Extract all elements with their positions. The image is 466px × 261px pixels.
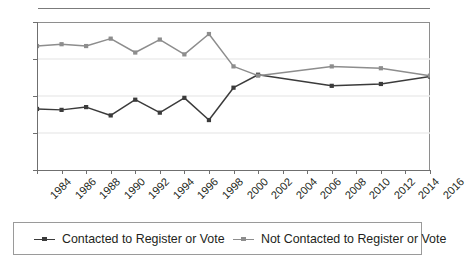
data-point-marker <box>231 86 235 90</box>
x-axis-tick-mark <box>111 170 112 174</box>
line-chart-canvas <box>37 22 430 170</box>
x-axis-tick-mark <box>258 170 259 174</box>
data-point-marker <box>59 108 63 112</box>
x-axis-tick-label: 2006 <box>318 176 343 201</box>
data-point-marker <box>182 96 186 100</box>
x-axis-tick-mark <box>37 170 38 174</box>
legend-item-not-contacted[interactable]: Not Contacted to Register or Vote <box>233 232 446 246</box>
x-axis-tick-label: 1988 <box>97 176 122 201</box>
data-series-line-1 <box>37 34 430 76</box>
x-axis-tick-mark <box>307 170 308 174</box>
x-axis-tick-label: 2008 <box>343 176 368 201</box>
x-axis-tick-mark <box>381 170 382 174</box>
legend-item-label: Not Contacted to Register or Vote <box>261 233 446 245</box>
legend-item-contacted[interactable]: Contacted to Register or Vote <box>34 232 225 246</box>
x-axis-tick-label: 1984 <box>48 176 73 201</box>
x-axis-tick-label: 2012 <box>392 176 417 201</box>
x-axis-tick-label: 1994 <box>171 176 196 201</box>
y-axis-tick-mark <box>33 59 37 60</box>
x-axis-tick-mark <box>86 170 87 174</box>
data-point-marker <box>231 64 235 68</box>
data-point-marker <box>59 42 63 46</box>
y-axis-tick-mark <box>33 22 37 23</box>
x-axis-tick-mark <box>62 170 63 174</box>
x-axis-tick-label: 1992 <box>146 176 171 201</box>
line-marker-icon <box>233 234 254 244</box>
data-point-marker <box>84 105 88 109</box>
x-axis-tick-mark <box>209 170 210 174</box>
y-axis-tick-mark <box>33 133 37 134</box>
x-axis-tick-label: 2016 <box>441 176 466 201</box>
x-axis-tick-mark <box>234 170 235 174</box>
data-point-marker <box>133 98 137 102</box>
data-point-marker <box>84 44 88 48</box>
legend-item-label: Contacted to Register or Vote <box>62 233 225 245</box>
x-axis-tick-label: 2004 <box>294 176 319 201</box>
x-axis-tick-mark <box>430 170 431 174</box>
top-divider-rule <box>38 8 430 9</box>
x-axis-tick-label: 2014 <box>417 176 442 201</box>
x-axis-tick-label: 2002 <box>269 176 294 201</box>
chart-plot-area <box>37 22 430 170</box>
x-axis-tick-label: 2000 <box>245 176 270 201</box>
x-axis-tick-mark <box>405 170 406 174</box>
x-axis-tick-mark <box>184 170 185 174</box>
data-point-marker <box>379 66 383 70</box>
data-point-marker <box>182 52 186 56</box>
data-point-marker <box>330 64 334 68</box>
data-point-marker <box>207 32 211 36</box>
x-axis-tick-mark <box>356 170 357 174</box>
line-marker-icon <box>34 234 55 244</box>
x-axis-tick-mark <box>160 170 161 174</box>
chart-legend: Contacted to Register or Vote Not Contac… <box>13 222 422 255</box>
y-axis-line <box>37 22 38 171</box>
data-point-marker <box>109 113 113 117</box>
x-axis-tick-label: 2010 <box>367 176 392 201</box>
data-point-marker <box>158 37 162 41</box>
data-point-marker <box>133 50 137 54</box>
x-axis-tick-label: 1998 <box>220 176 245 201</box>
data-point-marker <box>428 74 430 78</box>
data-point-marker <box>158 111 162 115</box>
y-axis-tick-mark <box>33 96 37 97</box>
data-point-marker <box>256 74 260 78</box>
x-axis-tick-mark <box>135 170 136 174</box>
data-series-line-0 <box>37 75 430 120</box>
data-point-marker <box>379 82 383 86</box>
x-axis-tick-label: 1986 <box>73 176 98 201</box>
x-axis-tick-mark <box>283 170 284 174</box>
data-point-marker <box>109 37 113 41</box>
x-axis-tick-label: 1996 <box>196 176 221 201</box>
x-axis-tick-mark <box>332 170 333 174</box>
data-point-marker <box>207 118 211 122</box>
x-axis-tick-label: 1990 <box>122 176 147 201</box>
data-point-marker <box>330 84 334 88</box>
